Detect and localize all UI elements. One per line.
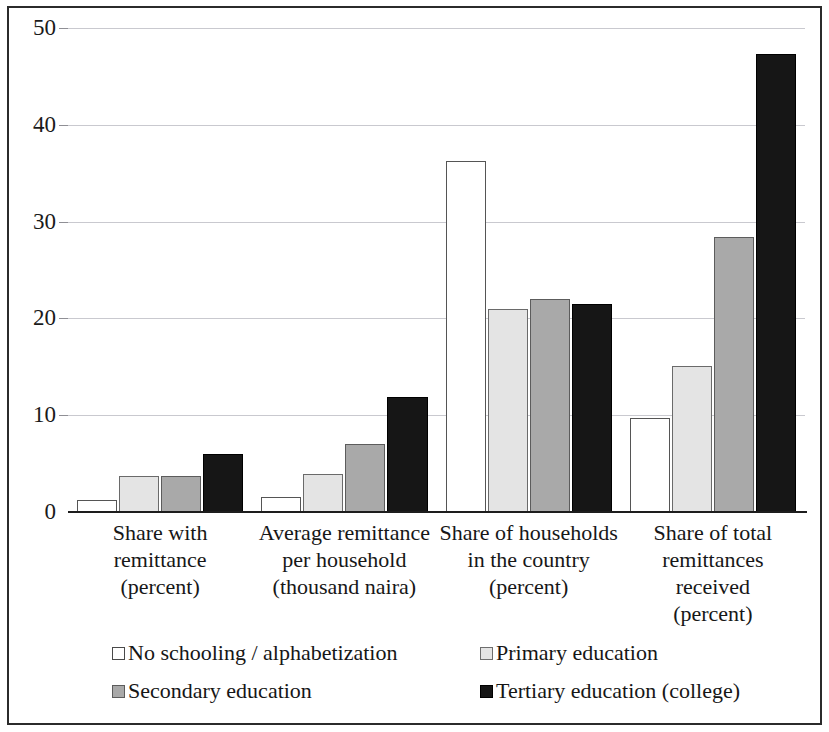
x-axis-category-label: Share of householdsin the country(percen… [427, 519, 631, 600]
x-axis-category-label: Share withremittance(percent) [58, 519, 262, 600]
bar [161, 476, 201, 512]
bar [119, 476, 159, 512]
legend-label: Secondary education [128, 679, 312, 703]
bar-group [437, 28, 621, 512]
bar [756, 54, 796, 512]
bar [203, 454, 243, 512]
legend-swatch-icon [112, 647, 125, 660]
x-axis-label-line: received [611, 573, 815, 600]
y-axis: 01020304050 [8, 28, 56, 512]
chart-legend: No schooling / alphabetizationPrimary ed… [112, 641, 752, 715]
bar [530, 299, 570, 512]
legend-item[interactable]: No schooling / alphabetization [112, 641, 397, 665]
x-axis-label-line: (percent) [58, 573, 262, 600]
bar [630, 418, 670, 512]
legend-item[interactable]: Secondary education [112, 679, 312, 703]
x-axis-label-line: (thousand naira) [242, 573, 446, 600]
bar-group [68, 28, 252, 512]
bar [714, 237, 754, 512]
bar-group [252, 28, 436, 512]
x-axis-label-line: in the country [427, 546, 631, 573]
x-axis-label-line: Share of households [427, 519, 631, 546]
y-axis-tick-label: 50 [33, 16, 56, 39]
x-axis-category-label: Share of totalremittancesreceived(percen… [611, 519, 815, 627]
bar [446, 161, 486, 512]
bar [572, 304, 612, 512]
legend-label: Primary education [496, 641, 658, 665]
bar [488, 309, 528, 512]
legend-swatch-icon [112, 685, 125, 698]
x-axis-label-line: per household [242, 546, 446, 573]
x-axis-label-line: remittance [58, 546, 262, 573]
x-axis-category-label: Average remittanceper household(thousand… [242, 519, 446, 600]
bar [345, 444, 385, 512]
x-axis-label-line: Average remittance [242, 519, 446, 546]
legend-label: No schooling / alphabetization [128, 641, 397, 665]
x-axis-line [68, 511, 807, 513]
chart-figure: 01020304050 Share withremittance(percent… [0, 0, 829, 732]
y-axis-tick-label: 10 [33, 403, 56, 426]
y-axis-tick-label: 40 [33, 113, 56, 136]
x-axis-label-line: (percent) [611, 600, 815, 627]
bar [387, 397, 427, 512]
y-axis-tick-label: 0 [45, 500, 57, 523]
legend-item[interactable]: Tertiary education (college) [480, 679, 740, 703]
x-axis-label-line: Share of total [611, 519, 815, 546]
legend-label: Tertiary education (college) [496, 679, 740, 703]
y-axis-tick-label: 20 [33, 306, 56, 329]
x-axis-label-line: remittances [611, 546, 815, 573]
legend-swatch-icon [480, 647, 493, 660]
legend-item[interactable]: Primary education [480, 641, 658, 665]
bar [303, 474, 343, 512]
x-axis-label-line: Share with [58, 519, 262, 546]
bar [672, 366, 712, 512]
legend-swatch-icon [480, 685, 493, 698]
y-axis-tick-label: 30 [33, 210, 56, 233]
plot-area [68, 28, 805, 512]
x-axis-label-line: (percent) [427, 573, 631, 600]
x-axis-labels: Share withremittance(percent)Average rem… [68, 519, 807, 634]
bar-group [621, 28, 805, 512]
bar [261, 497, 301, 512]
